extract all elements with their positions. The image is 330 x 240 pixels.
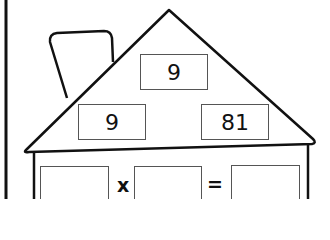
roof-left-number-box[interactable]: 9 bbox=[78, 104, 146, 140]
equation-operand1-box[interactable] bbox=[40, 166, 109, 199]
equals-sign: = bbox=[207, 173, 223, 195]
roof-right-number: 81 bbox=[221, 110, 249, 135]
chimney bbox=[50, 31, 113, 98]
roof-right-number-box[interactable]: 81 bbox=[201, 104, 269, 140]
roof-left-number: 9 bbox=[105, 110, 119, 135]
equation-operand2-box[interactable] bbox=[134, 166, 202, 199]
roof-top-number: 9 bbox=[167, 60, 181, 85]
multiply-sign: x bbox=[117, 174, 129, 196]
equation-result-box[interactable] bbox=[231, 165, 300, 199]
roof-top-number-box[interactable]: 9 bbox=[140, 54, 208, 90]
